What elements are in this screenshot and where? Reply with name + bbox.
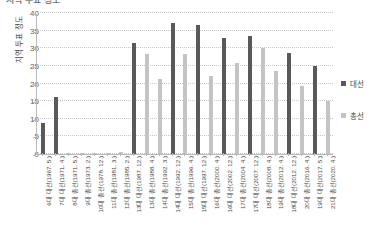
x-axis-tick-mark <box>146 153 147 156</box>
bar[interactable] <box>326 101 330 154</box>
bar-slot[interactable] <box>179 14 192 154</box>
y-axis-tick-mark <box>33 120 36 121</box>
legend-item[interactable]: 대선 <box>341 78 364 89</box>
bar[interactable] <box>183 54 187 154</box>
legend-label: 대선 <box>350 78 364 89</box>
y-axis-tick-mark <box>33 49 36 50</box>
x-axis-label-slot: 7대 대선(1971. 4.) <box>49 156 62 238</box>
x-axis-label-slot: 18대 총선(2008. 4.) <box>256 156 269 238</box>
bar-slot[interactable] <box>37 14 50 154</box>
x-axis-label-slot: 10대 총선(1978. 12.) <box>88 156 101 238</box>
bar[interactable] <box>248 36 252 154</box>
bar[interactable] <box>287 53 291 154</box>
x-axis-tick-mark <box>94 153 95 156</box>
bar-slot[interactable] <box>231 14 244 154</box>
bar-slot[interactable] <box>76 14 89 154</box>
gridline <box>37 12 333 13</box>
legend-item[interactable]: 총선 <box>341 110 364 121</box>
bar[interactable] <box>145 54 149 154</box>
bar[interactable] <box>313 66 317 154</box>
x-axis-label-slot: 17대 총선(2004. 4.) <box>230 156 243 238</box>
x-axis-label-slot: 21대 총선(2020. 4.) <box>320 156 333 238</box>
legend-swatch-icon <box>341 81 346 86</box>
bar[interactable] <box>261 48 265 154</box>
x-axis-label-slot: 17대 대선(2007. 12.) <box>243 156 256 238</box>
bar-slot[interactable] <box>269 14 282 154</box>
x-axis-label-slot: 14대 대선(1992. 12.) <box>165 156 178 238</box>
bar-slot[interactable] <box>282 14 295 154</box>
bar[interactable] <box>196 25 200 154</box>
bar-slot[interactable] <box>63 14 76 154</box>
x-axis-tick-mark <box>210 153 211 156</box>
y-axis-tick-mark <box>33 155 36 156</box>
x-axis-tick-mark <box>120 153 121 156</box>
x-axis-label-slot: 15대 대선(1997. 12.) <box>191 156 204 238</box>
bar[interactable] <box>235 63 239 154</box>
bar-slot[interactable] <box>153 14 166 154</box>
x-axis-tick-mark <box>42 153 43 156</box>
x-axis-tick-mark <box>236 153 237 156</box>
x-axis-tick-mark <box>301 153 302 156</box>
x-axis-label-slot: 6대 대선(1967. 5.) <box>36 156 49 238</box>
legend-label: 총선 <box>350 110 364 121</box>
bar-slot[interactable] <box>166 14 179 154</box>
x-axis-labels: 6대 대선(1967. 5.)7대 대선(1971. 4.)8대 총선(1971… <box>36 156 333 238</box>
bar[interactable] <box>41 123 45 154</box>
bar[interactable] <box>274 71 278 154</box>
x-axis-tick-mark <box>275 153 276 156</box>
bar-chart: 지역 투표 정도 지역 투표 정도 0510152025303540 6대 대선… <box>0 0 378 238</box>
x-axis-label-slot: 16대 대선(2002. 12.) <box>217 156 230 238</box>
bar-slot[interactable] <box>102 14 115 154</box>
bar-slot[interactable] <box>140 14 153 154</box>
x-axis-label-slot: 12대 총선(1985. 2.) <box>113 156 126 238</box>
bar[interactable] <box>158 79 162 154</box>
x-axis-tick-mark <box>197 153 198 156</box>
x-axis-tick-mark <box>249 153 250 156</box>
legend-swatch-icon <box>341 113 346 118</box>
bar[interactable] <box>132 43 136 154</box>
x-axis-tick-mark <box>55 153 56 156</box>
x-axis-label-slot: 15대 총선(1996. 4.) <box>178 156 191 238</box>
x-axis-label-slot: 20대 총선(2016. 4.) <box>294 156 307 238</box>
x-axis-label-slot: 16대 총선(2000. 4.) <box>204 156 217 238</box>
x-axis-label: 21대 총선(2020. 4.) <box>329 156 336 209</box>
bar[interactable] <box>300 86 304 154</box>
x-axis-label-slot: 13대 대선(1987. 12.) <box>126 156 139 238</box>
x-axis-label-slot: 8대 총선(1971. 5.) <box>62 156 75 238</box>
x-axis-tick-mark <box>68 153 69 156</box>
x-axis-tick-mark <box>172 153 173 156</box>
x-axis-tick-mark <box>107 153 108 156</box>
bar[interactable] <box>171 23 175 154</box>
bar-slot[interactable] <box>50 14 63 154</box>
bar-slot[interactable] <box>127 14 140 154</box>
x-axis-tick-mark <box>184 153 185 156</box>
plot-area <box>36 14 333 155</box>
bar[interactable] <box>209 76 213 154</box>
x-axis-tick-mark <box>327 153 328 156</box>
x-axis-label-slot: 9대 총선(1973. 2.) <box>75 156 88 238</box>
y-axis-tick-mark <box>33 102 36 103</box>
bar-slot[interactable] <box>89 14 102 154</box>
x-axis-label-slot: 14대 총선(1992. 3.) <box>152 156 165 238</box>
x-axis-tick-mark <box>314 153 315 156</box>
bar-slot[interactable] <box>218 14 231 154</box>
x-axis-label-slot: 11대 총선(1981. 3.) <box>101 156 114 238</box>
x-axis-label-slot: 13대 총선(1988. 4.) <box>139 156 152 238</box>
bar[interactable] <box>222 38 226 154</box>
bar-slot[interactable] <box>295 14 308 154</box>
bar-slot[interactable] <box>257 14 270 154</box>
y-axis-tick-mark <box>33 137 36 138</box>
bar-slot[interactable] <box>114 14 127 154</box>
x-axis-tick-mark <box>288 153 289 156</box>
x-axis-tick-mark <box>223 153 224 156</box>
y-axis-tick-mark <box>33 85 36 86</box>
x-axis-tick-mark <box>262 153 263 156</box>
bar-slot[interactable] <box>192 14 205 154</box>
y-axis-tick-mark <box>33 67 36 68</box>
bar-slot[interactable] <box>308 14 321 154</box>
bar[interactable] <box>54 97 58 154</box>
x-axis-tick-mark <box>159 153 160 156</box>
bar-slot[interactable] <box>244 14 257 154</box>
bar-slot[interactable] <box>205 14 218 154</box>
bar-slot[interactable] <box>321 14 334 154</box>
